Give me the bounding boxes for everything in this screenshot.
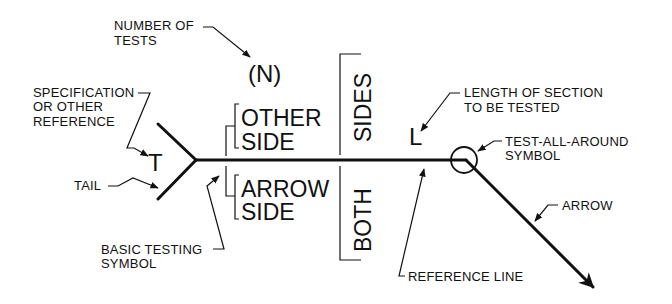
- length-symbol: L: [409, 123, 422, 150]
- label-taa-1: TEST-ALL-AROUND: [505, 134, 629, 149]
- label-basic-2: SYMBOL: [101, 256, 156, 271]
- label-spec-1: SPECIFICATION: [33, 85, 134, 100]
- label-length-2: TO BE TESTED: [464, 100, 560, 115]
- tail-upper: [158, 124, 196, 160]
- arrow-side-text-2: SIDE: [241, 199, 295, 225]
- both-text: BOTH: [350, 188, 376, 252]
- label-number-of-tests-2: TESTS: [114, 33, 157, 48]
- label-spec-2: OR OTHER: [33, 99, 103, 114]
- label-spec-3: REFERENCE: [33, 114, 115, 129]
- number-of-tests-symbol: (N): [248, 60, 281, 87]
- leader-spec: [127, 93, 150, 156]
- leader-number-of-tests: [203, 27, 250, 57]
- other-side-text-1: OTHER: [241, 105, 322, 131]
- label-basic-1: BASIC TESTING: [101, 242, 202, 257]
- label-reference-line: REFERENCE LINE: [408, 269, 524, 284]
- label-tail: TAIL: [74, 178, 101, 193]
- leader-taa: [478, 141, 502, 151]
- ndt-symbol-diagram: (N) T L OTHER SIDE ARROW SIDE SIDES BOTH…: [0, 0, 672, 304]
- other-side-bracket: [235, 104, 239, 148]
- leader-length: [421, 93, 460, 131]
- leader-tail: [108, 178, 158, 188]
- label-number-of-tests-1: NUMBER OF: [114, 18, 194, 33]
- leader-reference-line: [399, 169, 424, 276]
- other-side-bracket-stem: [226, 126, 235, 156]
- tail-lower: [158, 160, 196, 199]
- label-arrow: ARROW: [562, 198, 613, 213]
- leader-arrow: [535, 205, 558, 221]
- sides-text: SIDES: [350, 73, 376, 142]
- leader-basic: [207, 176, 224, 249]
- label-length-1: LENGTH OF SECTION: [464, 85, 603, 100]
- arrow-line: [466, 160, 593, 287]
- specification-symbol: T: [148, 149, 163, 176]
- other-side-text-2: SIDE: [241, 129, 295, 155]
- arrow-side-bracket-stem: [226, 166, 235, 196]
- arrow-side-bracket: [235, 175, 239, 219]
- label-taa-2: SYMBOL: [505, 148, 560, 163]
